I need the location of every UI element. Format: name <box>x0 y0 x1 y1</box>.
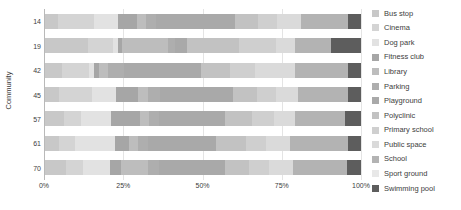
bar-row[interactable] <box>45 14 361 29</box>
bar-segment[interactable] <box>233 87 257 102</box>
bar-segment[interactable] <box>75 136 115 151</box>
bar-segment[interactable] <box>348 136 361 151</box>
bar-segment[interactable] <box>121 160 148 175</box>
bar-segment[interactable] <box>160 87 233 102</box>
bar-segment[interactable] <box>298 87 349 102</box>
bar-segment[interactable] <box>149 111 158 126</box>
legend-item[interactable]: Cinema <box>372 21 460 36</box>
bar-segment[interactable] <box>83 160 110 175</box>
bar-segment[interactable] <box>45 136 59 151</box>
bar-segment[interactable] <box>137 14 146 29</box>
bar-segment[interactable] <box>175 38 188 53</box>
bar-segment[interactable] <box>129 136 138 151</box>
legend-item[interactable]: Parking <box>372 79 460 94</box>
bar-segment[interactable] <box>62 63 89 78</box>
legend-item[interactable]: Dog park <box>372 35 460 50</box>
bar-segment[interactable] <box>345 111 361 126</box>
bar-segment[interactable] <box>277 14 301 29</box>
bar-segment[interactable] <box>293 160 347 175</box>
bar-segment[interactable] <box>124 63 201 78</box>
bar-segment[interactable] <box>45 160 66 175</box>
bar-segment[interactable] <box>81 111 111 126</box>
bar-segment[interactable] <box>138 136 147 151</box>
bar-segment[interactable] <box>246 136 267 151</box>
bar-segment[interactable] <box>295 111 346 126</box>
bar-segment[interactable] <box>45 111 64 126</box>
bar-segment[interactable] <box>159 111 225 126</box>
bar-segment[interactable] <box>235 14 259 29</box>
bar-segment[interactable] <box>269 160 293 175</box>
bar-segment[interactable] <box>348 14 361 29</box>
bar-row[interactable] <box>45 87 361 102</box>
bar-segment[interactable] <box>59 87 92 102</box>
bar-segment[interactable] <box>230 63 255 78</box>
bar-segment[interactable] <box>64 111 81 126</box>
bar-segment[interactable] <box>156 14 235 29</box>
bar-segment[interactable] <box>58 14 94 29</box>
bar-segment[interactable] <box>45 63 62 78</box>
bar-segment[interactable] <box>301 14 348 29</box>
bar-segment[interactable] <box>159 160 225 175</box>
bar-segment[interactable] <box>276 87 298 102</box>
legend-item[interactable]: Bus stop <box>372 6 460 21</box>
bar-segment[interactable] <box>331 38 361 53</box>
bar-segment[interactable] <box>257 87 276 102</box>
legend-swatch-icon <box>372 170 379 177</box>
bar-segment[interactable] <box>187 38 239 53</box>
bar-segment[interactable] <box>258 14 277 29</box>
bar-segment[interactable] <box>59 136 75 151</box>
legend-item[interactable]: Library <box>372 64 460 79</box>
bar-segment[interactable] <box>116 87 138 102</box>
bar-segment[interactable] <box>276 38 295 53</box>
bar-segment[interactable] <box>266 136 290 151</box>
bar-segment[interactable] <box>45 14 58 29</box>
bar-segment[interactable] <box>99 63 108 78</box>
bar-segment[interactable] <box>290 136 348 151</box>
bar-segment[interactable] <box>201 63 229 78</box>
bar-segment[interactable] <box>146 14 155 29</box>
legend-item[interactable]: Public space <box>372 137 460 152</box>
bar-row[interactable] <box>45 38 361 53</box>
bar-segment[interactable] <box>118 14 137 29</box>
legend-item[interactable]: Swimming pool <box>372 181 460 196</box>
bar-segment[interactable] <box>111 111 139 126</box>
bar-row[interactable] <box>45 136 361 151</box>
legend-item[interactable]: Primary school <box>372 123 460 138</box>
legend-item[interactable]: School <box>372 152 460 167</box>
bar-segment[interactable] <box>115 136 129 151</box>
bar-row[interactable] <box>45 63 361 78</box>
bar-segment[interactable] <box>88 38 113 53</box>
bar-segment[interactable] <box>138 87 147 102</box>
bar-segment[interactable] <box>252 111 274 126</box>
bar-segment[interactable] <box>225 160 249 175</box>
bar-segment[interactable] <box>347 160 361 175</box>
bar-segment[interactable] <box>45 87 59 102</box>
bar-segment[interactable] <box>148 136 216 151</box>
bar-segment[interactable] <box>295 38 331 53</box>
bar-row[interactable] <box>45 111 361 126</box>
bar-segment[interactable] <box>295 63 349 78</box>
bar-segment[interactable] <box>225 111 252 126</box>
bar-segment[interactable] <box>216 136 246 151</box>
bar-segment[interactable] <box>274 111 295 126</box>
bar-segment[interactable] <box>140 111 149 126</box>
legend-item[interactable]: Fitness club <box>372 50 460 65</box>
bar-segment[interactable] <box>66 160 83 175</box>
bar-row[interactable] <box>45 160 361 175</box>
bar-segment[interactable] <box>45 38 88 53</box>
bar-segment[interactable] <box>122 38 168 53</box>
legend-item[interactable]: Polyclinic <box>372 108 460 123</box>
bar-segment[interactable] <box>92 87 116 102</box>
bar-segment[interactable] <box>108 63 124 78</box>
bar-segment[interactable] <box>148 160 159 175</box>
bar-segment[interactable] <box>249 160 270 175</box>
bar-segment[interactable] <box>255 63 295 78</box>
legend-item[interactable]: Sport ground <box>372 167 460 182</box>
bar-segment[interactable] <box>239 38 275 53</box>
bar-segment[interactable] <box>148 87 161 102</box>
legend-item[interactable]: Playground <box>372 94 460 109</box>
bar-segment[interactable] <box>348 87 361 102</box>
bar-segment[interactable] <box>348 63 361 78</box>
bar-segment[interactable] <box>94 14 118 29</box>
bar-segment[interactable] <box>110 160 121 175</box>
